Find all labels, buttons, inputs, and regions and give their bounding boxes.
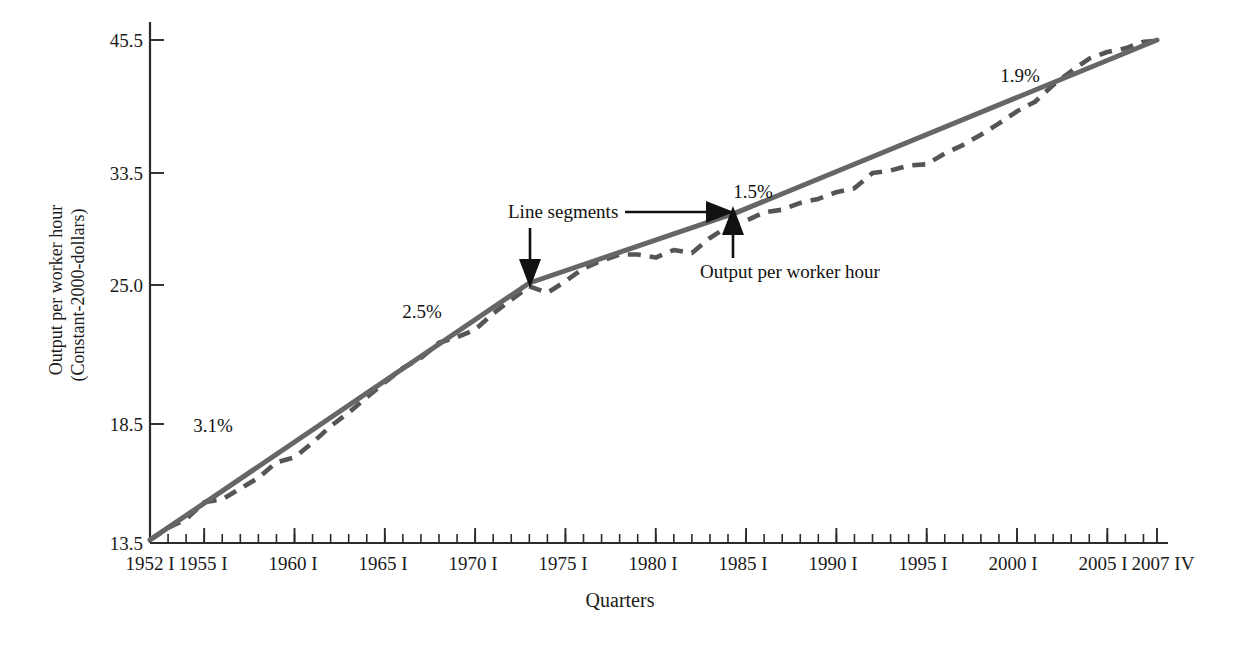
x-major-tick-marks bbox=[150, 528, 1157, 543]
chart-figure: 45.5 33.5 25.0 18.5 13.5 1952 I 1955 I 1… bbox=[0, 0, 1243, 645]
x-tick-label-7: 1985 I bbox=[718, 553, 767, 574]
y-tick-label-2: 25.0 bbox=[110, 275, 143, 296]
x-tick-label-6: 1980 I bbox=[628, 553, 677, 574]
y-tick-label-3: 18.5 bbox=[110, 414, 143, 435]
x-tick-labels: 1952 I 1955 I 1960 I 1965 I 1970 I 1975 … bbox=[125, 553, 1194, 574]
growth-rate-label-2-5: 2.5% bbox=[402, 301, 442, 322]
y-tick-marks bbox=[150, 40, 164, 424]
growth-rate-label-3-1: 3.1% bbox=[193, 415, 233, 436]
x-tick-label-2: 1960 I bbox=[268, 553, 317, 574]
x-tick-label-12: 2007 IV bbox=[1132, 553, 1195, 574]
y-tick-label-1: 33.5 bbox=[110, 163, 143, 184]
callout-arrow-vertical-head bbox=[519, 259, 541, 288]
x-tick-label-5: 1975 I bbox=[538, 553, 587, 574]
y-tick-label-4: 13.5 bbox=[110, 533, 143, 554]
callout-line-segments-label: Line segments bbox=[508, 201, 618, 222]
x-tick-label-0: 1952 I bbox=[125, 553, 174, 574]
y-axis-title-line2: (Constant-2000-dollars) bbox=[68, 209, 89, 382]
x-tick-label-4: 1970 I bbox=[448, 553, 497, 574]
x-tick-label-9: 1995 I bbox=[898, 553, 947, 574]
x-tick-label-10: 2000 I bbox=[988, 553, 1037, 574]
output-per-worker-hour-chart: 45.5 33.5 25.0 18.5 13.5 1952 I 1955 I 1… bbox=[0, 0, 1243, 645]
x-axis-title: Quarters bbox=[586, 589, 655, 611]
x-tick-label-11: 2005 I bbox=[1078, 553, 1127, 574]
x-tick-label-3: 1965 I bbox=[358, 553, 407, 574]
callout-output-label: Output per worker hour bbox=[700, 261, 881, 282]
y-tick-labels: 45.5 33.5 25.0 18.5 13.5 bbox=[110, 30, 143, 554]
x-minor-tick-marks bbox=[150, 534, 1143, 543]
growth-rate-label-1-9: 1.9% bbox=[1000, 65, 1040, 86]
y-axis-title-line1: Output per worker hour bbox=[46, 205, 66, 375]
x-tick-label-8: 1990 I bbox=[808, 553, 857, 574]
growth-rate-label-1-5: 1.5% bbox=[733, 181, 773, 202]
y-tick-label-0: 45.5 bbox=[110, 30, 143, 51]
series-output-per-worker-hour bbox=[150, 41, 1157, 540]
series-line-segments bbox=[150, 40, 1157, 540]
x-tick-label-1: 1955 I bbox=[178, 553, 227, 574]
